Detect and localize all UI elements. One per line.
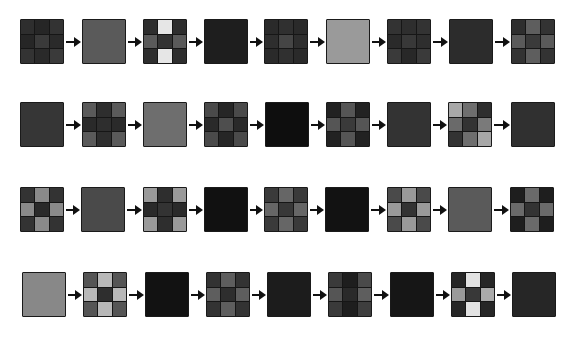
grid-cell (540, 188, 553, 202)
grid-cell (294, 217, 307, 231)
grid-cell (402, 35, 415, 49)
grid-cell (97, 118, 110, 132)
grid-cell (265, 49, 278, 63)
grid-cell (207, 273, 220, 287)
grid-tile (387, 187, 431, 232)
grid-cell (358, 288, 371, 302)
arrow-right-icon (68, 290, 82, 300)
grid-cell (158, 203, 171, 217)
arrow-right-icon (128, 120, 142, 130)
grid-cell (236, 302, 249, 316)
grid-cell (526, 20, 539, 34)
grid-cell (388, 49, 401, 63)
arrow-right-icon (310, 205, 324, 215)
solid-tile (204, 187, 248, 232)
grid-cell (358, 302, 371, 316)
grid-cell (173, 49, 186, 63)
grid-cell (356, 132, 369, 146)
solid-tile (512, 272, 556, 317)
grid-cell (341, 132, 354, 146)
arrow-right-icon (189, 120, 203, 130)
arrow-right-icon (433, 37, 448, 47)
grid-cell (205, 103, 218, 117)
solid-tile (22, 272, 66, 317)
grid-cell (478, 132, 491, 146)
grid-cell (35, 49, 48, 63)
grid-cell (327, 132, 340, 146)
grid-cell (526, 35, 539, 49)
grid-cell (481, 273, 494, 287)
grid-cell (512, 20, 525, 34)
grid-cell (402, 49, 415, 63)
grid-cell (511, 203, 524, 217)
grid-cell (84, 273, 97, 287)
grid-cell (35, 217, 48, 231)
grid-cell (234, 118, 247, 132)
grid-cell (279, 20, 292, 34)
grid-cell (158, 35, 171, 49)
grid-cell (158, 217, 171, 231)
grid-cell (265, 20, 278, 34)
grid-cell (144, 35, 157, 49)
grid-cell (98, 302, 111, 316)
arrow-right-icon (127, 205, 142, 215)
arrow-right-icon (189, 37, 203, 47)
grid-cell (402, 188, 415, 202)
grid-cell (540, 217, 553, 231)
grid-cell (417, 188, 430, 202)
grid-cell (329, 302, 342, 316)
grid-cell (526, 49, 539, 63)
grid-cell (279, 49, 292, 63)
grid-cell (84, 288, 97, 302)
grid-cell (173, 20, 186, 34)
grid-cell (388, 188, 401, 202)
grid-cell (478, 103, 491, 117)
arrow-right-icon (250, 205, 263, 215)
grid-cell (21, 20, 34, 34)
arrow-right-icon (497, 290, 511, 300)
solid-tile (267, 272, 311, 317)
grid-cell (97, 103, 110, 117)
grid-cell (173, 217, 186, 231)
grid-tile (20, 187, 64, 232)
grid-cell (343, 273, 356, 287)
solid-tile (82, 19, 126, 64)
arrow-right-icon (310, 37, 325, 47)
grid-cell (265, 35, 278, 49)
grid-cell (481, 302, 494, 316)
grid-cell (388, 203, 401, 217)
arrow-right-icon (433, 120, 447, 130)
grid-cell (402, 217, 415, 231)
grid-cell (294, 49, 307, 63)
grid-cell (50, 49, 63, 63)
grid-cell (417, 49, 430, 63)
grid-cell (35, 20, 48, 34)
grid-cell (50, 35, 63, 49)
grid-tile (326, 102, 370, 147)
grid-cell (234, 103, 247, 117)
solid-tile (145, 272, 189, 317)
grid-cell (112, 103, 125, 117)
arrow-right-icon (494, 205, 509, 215)
grid-cell (144, 20, 157, 34)
grid-cell (158, 49, 171, 63)
grid-cell (541, 49, 554, 63)
grid-tile (264, 187, 308, 232)
grid-cell (279, 217, 292, 231)
grid-cell (478, 118, 491, 132)
grid-tile (143, 19, 187, 64)
solid-tile (511, 102, 555, 147)
grid-cell (173, 188, 186, 202)
grid-tile (204, 102, 248, 147)
arrow-right-icon (189, 205, 203, 215)
grid-tile (510, 187, 554, 232)
grid-cell (279, 188, 292, 202)
grid-cell (463, 118, 476, 132)
arrow-right-icon (250, 37, 263, 47)
arrow-right-icon (433, 205, 447, 215)
grid-cell (205, 118, 218, 132)
grid-cell (144, 203, 157, 217)
grid-cell (98, 273, 111, 287)
grid-cell (50, 188, 63, 202)
grid-cell (466, 273, 479, 287)
